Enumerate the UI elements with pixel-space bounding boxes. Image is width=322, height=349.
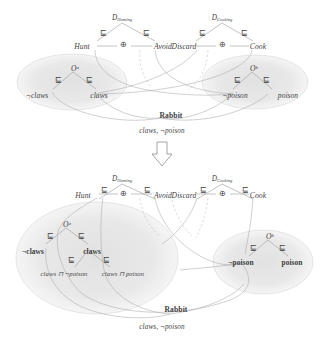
domain-label-hunting-bottom: DHunting [112, 176, 132, 183]
individual-rabbit-top: Rabbit [160, 112, 183, 120]
transform-arrow-graphics [152, 142, 172, 166]
concept-claws-bottom: claws [83, 248, 101, 255]
ontology-a-region-top [17, 54, 127, 110]
subsumption-icon: ⊑ [242, 186, 249, 194]
ontology-b-region-top [202, 55, 308, 109]
ontology-b-label-bottom: Ob [266, 233, 274, 241]
action-hunt-top: Hunt [74, 43, 90, 51]
concept-claws-top: claws [90, 92, 107, 99]
assertion-list-bottom: claws, ¬poison [139, 324, 184, 331]
ontology-a-region-bottom [16, 202, 178, 314]
action-discard-top: Discard [172, 43, 197, 51]
subsumption-icon: ⊑ [279, 244, 286, 252]
operator-oplus-icon: ⊕ [120, 41, 127, 49]
figure-graphics [0, 0, 322, 349]
subsumption-icon: ⊑ [241, 29, 248, 37]
domain-label-cooking-bottom: DCooking [212, 176, 232, 183]
ontology-refinement-figure: DHunting DCooking ⊑ ⊑ ⊑ ⊑ Hunt Avoid Dis… [0, 0, 322, 349]
subsumption-icon: ⊑ [78, 232, 85, 240]
assertion-list-top: claws, ¬poison [139, 128, 184, 135]
subsumption-icon: ⊑ [47, 232, 54, 240]
individual-rabbit-bottom: Rabbit [165, 306, 188, 314]
subsumption-icon: ⊑ [250, 244, 257, 252]
operator-oplus-icon: ⊕ [219, 41, 226, 49]
subsumption-icon: ⊑ [199, 29, 206, 37]
action-avoid-top: Avoid [154, 43, 172, 51]
refined-concept-claws-not-poison: claws ⊓ ¬poison [41, 271, 88, 278]
top-diagram-graphics [17, 23, 308, 120]
subsumption-icon: ⊑ [68, 256, 75, 264]
action-hunt-bottom: Hunt [75, 192, 91, 200]
subsumption-icon: ⊑ [103, 256, 110, 264]
ontology-a-label-top: Oa [71, 65, 79, 73]
concept-not-claws-bottom: ¬claws [22, 248, 44, 255]
action-cook-bottom: Cook [250, 192, 266, 200]
operator-oplus-icon: ⊕ [120, 190, 127, 198]
ontology-b-label-top: Ob [250, 65, 258, 73]
ontology-a-label-bottom: Oa [63, 221, 71, 229]
domain-label-cooking-top: DCooking [212, 15, 232, 22]
bottom-diagram-graphics [16, 184, 313, 318]
subsumption-icon: ⊑ [100, 29, 107, 37]
subsumption-icon: ⊑ [234, 76, 241, 84]
action-cook-top: Cook [250, 43, 266, 51]
refined-concept-claws-poison: claws ⊓ poison [102, 271, 144, 278]
subsumption-icon: ⊑ [86, 76, 93, 84]
subsumption-icon: ⊑ [200, 186, 207, 194]
concept-not-poison-bottom: ¬poison [228, 259, 253, 266]
concept-poison-top: poison [278, 92, 298, 99]
subsumption-icon: ⊑ [143, 29, 150, 37]
concept-not-poison-top: ¬poison [222, 92, 247, 99]
domain-label-hunting-top: DHunting [112, 15, 132, 22]
concept-poison-bottom: poison [281, 259, 302, 266]
subsumption-icon: ⊑ [55, 76, 62, 84]
subsumption-icon: ⊑ [144, 186, 151, 194]
operator-oplus-icon: ⊕ [219, 190, 226, 198]
concept-not-claws-top: ¬claws [26, 92, 48, 99]
subsumption-icon: ⊑ [263, 76, 270, 84]
subsumption-icon: ⊑ [101, 186, 108, 194]
action-avoid-bottom: Avoid [154, 192, 172, 200]
action-discard-bottom: Discard [172, 192, 197, 200]
